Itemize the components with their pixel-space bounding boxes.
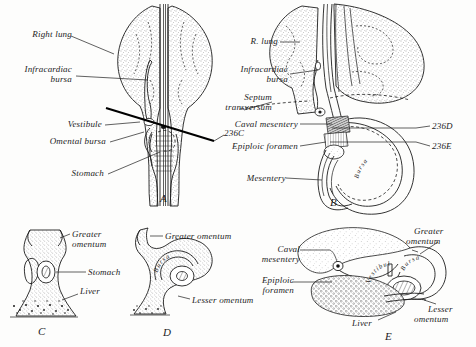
label-liver-e: Liver — [352, 318, 372, 328]
label-septum-b-line1: Septum — [214, 92, 272, 102]
label-stomach-c: Stomach — [88, 267, 120, 277]
label-236e: 236E — [432, 141, 452, 151]
label-epiploic-foramen-b: Epiploic foramen — [194, 141, 298, 151]
label-caval-mesentery-b: Caval mesentery — [198, 119, 298, 129]
label-infracardiac-bursa-a-line2: bursa — [2, 74, 72, 84]
label-caval-mesentery-e-line1: Caval — [238, 244, 300, 254]
label-stomach-a: Stomach — [42, 168, 104, 178]
label-infracardiac-bursa-b-line2: bursa — [214, 74, 288, 84]
label-greater-omentum-e-line1: Greater — [414, 226, 444, 236]
panel-letter-a: A — [160, 192, 167, 204]
label-greater-omentum-c-line1: Greater — [72, 229, 102, 239]
bursa-curved-text-e: Bursa — [399, 253, 421, 271]
label-epiploic-foramen-e-line1: Epiploic — [238, 275, 294, 285]
label-lesser-omentum-e-line2: omentum — [414, 314, 448, 324]
panel-letter-d: D — [163, 326, 171, 338]
panel-letter-b: B — [330, 196, 337, 208]
label-236c: 236C — [224, 128, 244, 138]
label-greater-omentum-c-line2: omentum — [72, 239, 106, 249]
anatomical-figure: Bursa — [0, 0, 476, 347]
label-right-lung-a: Right lung — [6, 29, 72, 39]
panel-letter-c: C — [38, 325, 45, 337]
label-lesser-omentum-e-line1: Lesser — [428, 304, 453, 314]
bursa-curved-text-b: Bursa — [352, 156, 369, 179]
label-greater-omentum-e-line2: omentum — [406, 236, 440, 246]
label-mesentery-b: Mesentery — [214, 173, 286, 183]
panel-letter-e: E — [385, 330, 392, 342]
label-infracardiac-bursa-b-line1: Infracardiac — [214, 64, 288, 74]
label-lesser-omentum-d: Lesser omentum — [192, 295, 254, 305]
label-septum-b-line2: transversum — [206, 102, 272, 112]
label-vestibule-a: Vestibule — [40, 119, 102, 129]
label-infracardiac-bursa-a-line1: Infracardiac — [2, 64, 72, 74]
label-caval-mesentery-e-line2: mesentery — [228, 254, 300, 264]
label-omental-bursa-a: Omental bursa — [10, 136, 106, 146]
label-epiploic-foramen-e-line2: foramen — [238, 285, 294, 295]
label-liver-c: Liver — [80, 286, 100, 296]
label-greater-omentum-d: Greater omentum — [165, 231, 231, 241]
label-236d: 236D — [432, 121, 453, 131]
label-r-lung-b: R. lung — [232, 36, 278, 46]
